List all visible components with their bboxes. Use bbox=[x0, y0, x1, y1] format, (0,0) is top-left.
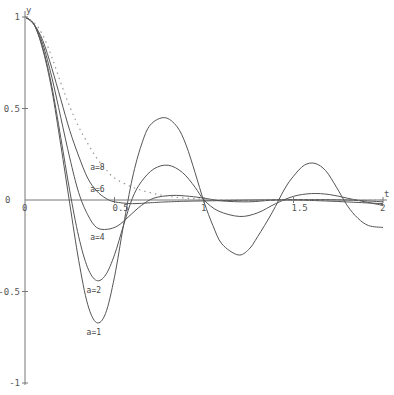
y-tick-label: -0.5 bbox=[0, 287, 20, 297]
line-chart: 00.511.5210.50-0.5-1yt a=1a=2a=4a=6a=8 bbox=[0, 0, 394, 395]
curve-label: a=2 bbox=[87, 286, 102, 295]
y-tick-label: 0 bbox=[5, 195, 10, 205]
x-tick-label: 0 bbox=[22, 203, 27, 213]
y-tick-label: 1 bbox=[15, 12, 20, 22]
curve-a-2 bbox=[25, 17, 383, 281]
y-tick-label: 0.5 bbox=[4, 104, 20, 114]
curve-a-1 bbox=[25, 17, 383, 323]
curves bbox=[25, 17, 383, 323]
x-tick-label: 1.5 bbox=[292, 203, 308, 213]
curve-a-8 bbox=[25, 17, 383, 200]
curve-label: a=8 bbox=[90, 163, 105, 172]
curve-label: a=4 bbox=[90, 233, 105, 242]
curve-label: a=6 bbox=[90, 185, 105, 194]
curve-label: a=1 bbox=[87, 328, 102, 337]
x-axis-label: t bbox=[384, 189, 389, 199]
x-tick-label: 2 bbox=[380, 203, 385, 213]
y-axis-label: y bbox=[26, 5, 32, 15]
y-tick-label: -1 bbox=[9, 378, 20, 388]
